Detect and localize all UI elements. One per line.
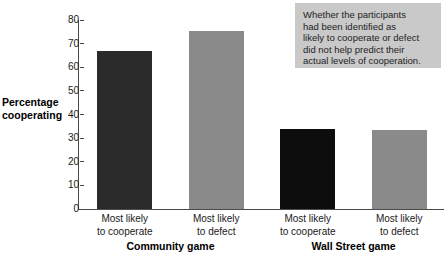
bar xyxy=(280,129,335,209)
annotation-text: Whether the participants had been identi… xyxy=(303,9,434,67)
bar xyxy=(372,130,427,209)
annotation-callout: Whether the participants had been identi… xyxy=(295,3,441,68)
category-labels: Most likely to cooperateMost likely to d… xyxy=(79,213,445,241)
category-label: Most likely to defect xyxy=(171,213,263,238)
category-label: Most likely to cooperate xyxy=(79,213,171,238)
group-labels: Community gameWall Street game xyxy=(79,240,445,256)
bar-chart: Percentage cooperating 01020304050607080… xyxy=(0,0,446,264)
group-label: Community game xyxy=(79,240,262,253)
bar xyxy=(97,51,152,209)
bar xyxy=(189,31,244,209)
group-label: Wall Street game xyxy=(262,240,445,253)
category-label: Most likely to defect xyxy=(354,213,446,238)
category-label: Most likely to cooperate xyxy=(262,213,354,238)
